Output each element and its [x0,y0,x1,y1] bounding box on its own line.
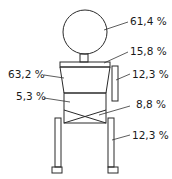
pelvis-segment [64,93,106,123]
torso-upper-percentage-label: 63,2 % [8,68,45,80]
shoulder-plate-segment [60,62,110,67]
shoulder-leader-line [104,52,128,63]
head-percentage-label: 61,4 % [130,15,167,27]
torso-lower-leader-line [44,98,70,102]
body-segment-diagram: 61,4 % 15,8 % 12,3 % 63,2 % 5,3 % 8,8 % … [0,0,172,179]
head-leader-line [104,22,128,30]
arm-percentage-label: 12,3 % [132,68,169,80]
leg-percentage-label: 12,3 % [132,129,169,141]
left-foot-segment [52,167,62,173]
torso-lower-percentage-label: 5,3 % [16,90,46,102]
head-segment [63,10,107,54]
shoulder-percentage-label: 15,8 % [130,45,167,57]
right-leg-segment [108,118,114,167]
arm-segment [112,66,118,101]
pelvis-percentage-label: 8,8 % [136,98,166,110]
neck-segment [80,54,88,62]
right-foot-segment [108,167,118,173]
upper-torso-segment [60,67,110,93]
left-leg-segment [55,118,61,167]
leg-leader-line [112,135,130,140]
